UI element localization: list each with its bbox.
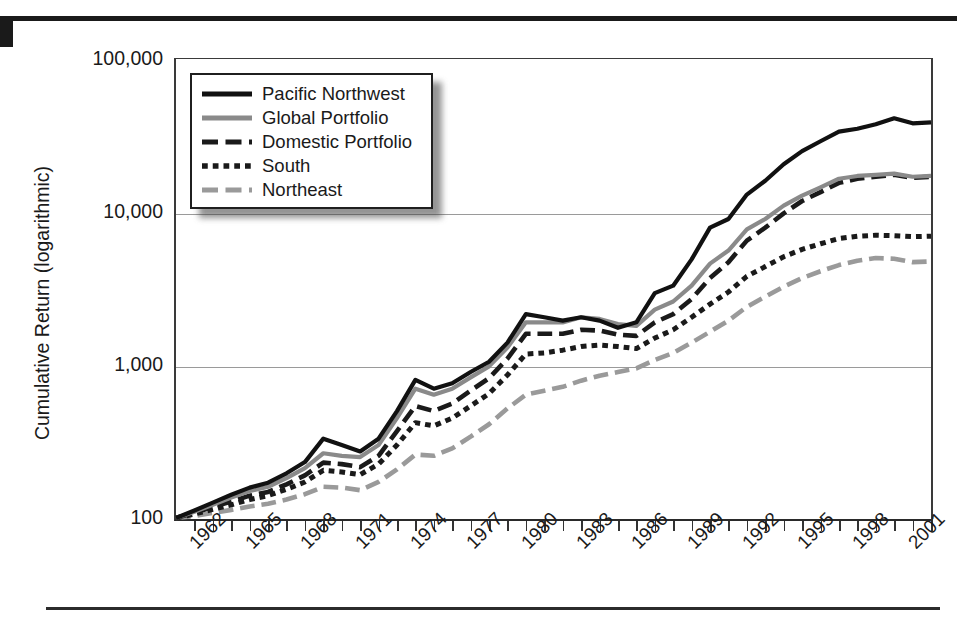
- legend-swatch-icon: [201, 159, 253, 173]
- legend-item-domestic-portfolio[interactable]: Domestic Portfolio: [201, 130, 431, 154]
- legend-label: Domestic Portfolio: [262, 133, 412, 152]
- x-tick-label-1992: 1992: [738, 508, 783, 553]
- legend-item-pacific-northwest[interactable]: Pacific Northwest: [201, 82, 431, 106]
- legend-swatch-icon: [201, 183, 253, 197]
- legend-label: Northeast: [262, 181, 342, 200]
- legend-item-global-portfolio[interactable]: Global Portfolio: [201, 106, 431, 130]
- x-axis-tick-labels: 1962196519681971197419771980198319861989…: [0, 0, 963, 628]
- x-tick-label-1998: 1998: [848, 508, 893, 553]
- legend-item-northeast[interactable]: Northeast: [201, 178, 431, 202]
- x-tick-label-1965: 1965: [241, 508, 286, 553]
- legend-swatch-icon: [201, 111, 253, 125]
- legend-label: Pacific Northwest: [262, 85, 405, 104]
- x-tick-label-1995: 1995: [793, 508, 838, 553]
- x-tick-label-1977: 1977: [462, 508, 507, 553]
- x-tick-label-1980: 1980: [517, 508, 562, 553]
- legend-item-south[interactable]: South: [201, 154, 431, 178]
- x-tick-label-1974: 1974: [406, 508, 451, 553]
- chart-legend: Pacific NorthwestGlobal PortfolioDomesti…: [190, 73, 433, 209]
- x-tick-label-1983: 1983: [572, 508, 617, 553]
- x-tick-label-1962: 1962: [185, 508, 230, 553]
- x-tick-label-1986: 1986: [627, 508, 672, 553]
- x-tick-label-1968: 1968: [296, 508, 341, 553]
- legend-swatch-icon: [201, 87, 253, 101]
- x-tick-label-1989: 1989: [683, 508, 728, 553]
- legend-label: South: [262, 157, 310, 176]
- legend-swatch-icon: [201, 135, 253, 149]
- x-tick-label-2001: 2001: [904, 508, 949, 553]
- legend-label: Global Portfolio: [262, 109, 388, 128]
- x-tick-label-1971: 1971: [351, 508, 396, 553]
